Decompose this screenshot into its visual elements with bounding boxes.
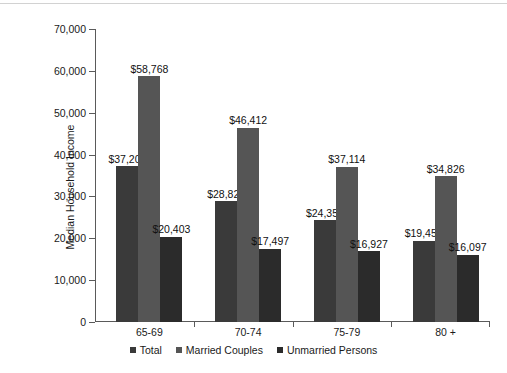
legend-swatch-icon	[277, 347, 283, 353]
bar: $24,357	[314, 220, 336, 322]
bar-value-label: $34,826	[427, 164, 465, 175]
y-axis-tick	[89, 238, 95, 239]
legend-item[interactable]: Married Couples	[176, 345, 263, 356]
y-axis-title: Median Household Income	[64, 124, 76, 249]
bar-value-label: $20,403	[152, 224, 190, 235]
x-axis-category-label: 75-79	[333, 327, 360, 338]
y-axis-line	[95, 29, 96, 322]
bar: $20,403	[160, 237, 182, 322]
x-axis-tick	[489, 322, 490, 327]
legend-item[interactable]: Unmarried Persons	[277, 345, 377, 356]
bar-value-label: $58,768	[130, 64, 168, 75]
bar-value-label: $16,097	[449, 242, 487, 253]
plot-area: 010,00020,00030,00040,00050,00060,00070,…	[95, 29, 490, 322]
bar: $16,097	[457, 255, 479, 322]
x-axis-category-label: 80 +	[435, 327, 456, 338]
y-axis-tick-label: 30,000	[54, 191, 86, 202]
x-axis-tick	[391, 322, 392, 327]
y-axis-tick-label: 40,000	[54, 149, 86, 160]
y-axis-tick-label: 10,000	[54, 275, 86, 286]
bar: $19,457	[413, 241, 435, 322]
y-axis-tick-label: 70,000	[54, 24, 86, 35]
y-axis-tick	[89, 71, 95, 72]
bar: $46,412	[237, 128, 259, 322]
legend-swatch-icon	[130, 347, 136, 353]
x-axis-category-label: 65-69	[136, 327, 163, 338]
y-axis-tick-label: 0	[80, 317, 86, 328]
bar: $16,927	[358, 251, 380, 322]
x-axis-category-label: 70-74	[235, 327, 262, 338]
y-axis-tick-label: 20,000	[54, 233, 86, 244]
y-axis-tick-label: 60,000	[54, 66, 86, 77]
chart-legend: TotalMarried CouplesUnmarried Persons	[0, 345, 507, 356]
bar-value-label: $37,114	[328, 154, 365, 165]
bar-value-label: $46,412	[229, 115, 267, 126]
x-axis-tick	[293, 322, 294, 327]
y-axis-tick	[89, 113, 95, 114]
y-axis-tick	[89, 29, 95, 30]
y-axis-tick	[89, 322, 95, 323]
legend-label: Unmarried Persons	[287, 345, 377, 356]
x-axis-tick	[194, 322, 195, 327]
top-divider	[0, 3, 507, 4]
bar: $17,497	[259, 249, 281, 322]
y-axis-tick	[89, 155, 95, 156]
legend-label: Married Couples	[186, 345, 263, 356]
y-axis-tick-label: 50,000	[54, 107, 86, 118]
bar-value-label: $16,927	[350, 239, 388, 250]
legend-label: Total	[140, 345, 162, 356]
legend-swatch-icon	[176, 347, 182, 353]
bar: $58,768	[138, 76, 160, 322]
y-axis-tick	[89, 280, 95, 281]
legend-item[interactable]: Total	[130, 345, 162, 356]
bar-chart: Median Household Income 010,00020,00030,…	[0, 0, 507, 373]
bar: $37,200	[116, 166, 138, 322]
bar-value-label: $17,497	[251, 236, 289, 247]
bar: $28,820	[215, 201, 237, 322]
y-axis-tick	[89, 196, 95, 197]
